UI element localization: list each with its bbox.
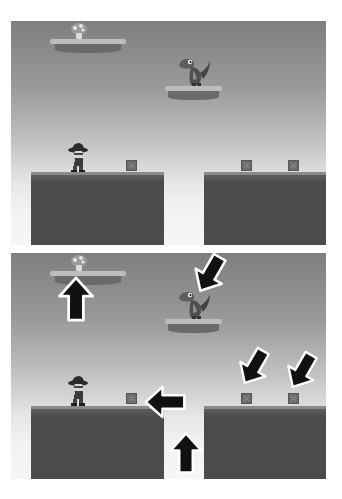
crate-right-1	[241, 160, 252, 171]
ground-right	[204, 406, 326, 479]
dinosaur-enemy-icon	[177, 55, 213, 87]
arrow-up-gap-icon	[169, 431, 203, 475]
game-frame-top	[11, 21, 326, 245]
game-frame-bottom-annotated	[11, 253, 326, 479]
arrow-left-crate-icon	[144, 385, 186, 419]
floating-platform-dino	[165, 86, 222, 100]
mushroom-icon	[70, 22, 88, 40]
arrow-down-left-crate-2-icon	[278, 345, 326, 397]
ground-right	[204, 172, 326, 245]
crate-left	[126, 393, 137, 404]
arrow-up-mushroom-icon	[57, 276, 95, 322]
player-character-icon	[68, 376, 88, 406]
crate-right-2	[288, 393, 299, 404]
crate-right-1	[241, 393, 252, 404]
arrow-down-left-crate-1-icon	[230, 341, 279, 393]
crate-left	[126, 160, 137, 171]
floating-platform-mushroom	[50, 39, 126, 53]
player-character-icon	[68, 143, 88, 173]
mushroom-icon	[70, 254, 88, 272]
ground-left	[31, 172, 164, 245]
floating-platform-dino	[165, 319, 222, 333]
crate-right-2	[288, 160, 299, 171]
